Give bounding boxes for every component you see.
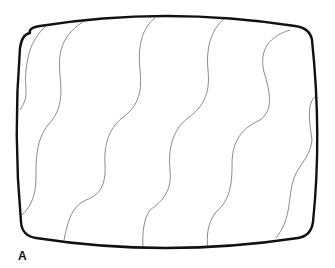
wave-line-5 — [207, 30, 290, 250]
wave-line-6 — [276, 95, 318, 238]
wave-line-3 — [64, 18, 155, 240]
screen-outline — [17, 16, 318, 248]
wave-lines — [20, 18, 318, 250]
wave-line-2 — [22, 20, 86, 215]
wave-line-4 — [143, 18, 225, 250]
panel-label: A — [18, 250, 27, 262]
screen-distortion-diagram — [0, 0, 335, 268]
